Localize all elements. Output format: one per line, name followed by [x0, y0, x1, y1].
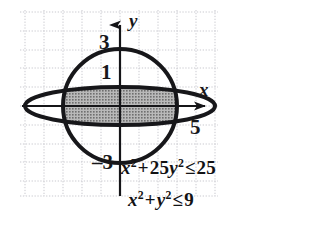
label-x-five: 5 — [190, 117, 201, 138]
eq1-relation: ≤ — [184, 157, 197, 178]
eq1-plus: + — [137, 157, 150, 178]
eq1-rhs: 25 — [197, 157, 216, 178]
axis-label-y: y — [129, 11, 137, 30]
eq1-x-exponent: 2 — [131, 157, 137, 170]
eq1-x: x — [121, 157, 131, 178]
label-y-three: 3 — [99, 32, 110, 53]
eq2-y-exponent: 2 — [165, 189, 171, 202]
label-y-one: 1 — [101, 62, 112, 83]
label-y-negative-three: –3 — [92, 152, 113, 173]
eq2-relation: ≤ — [172, 189, 185, 210]
axis-label-x: x — [199, 80, 209, 99]
eq2-plus: + — [144, 189, 157, 210]
eq2-x: x — [128, 189, 138, 210]
eq2-rhs: 9 — [184, 189, 194, 210]
inequality-first: x2+25y2≤25 — [121, 158, 216, 177]
inequality-second: x2+y2≤9 — [128, 190, 194, 209]
eq2-x-exponent: 2 — [138, 189, 144, 202]
eq1-y: y — [169, 157, 178, 178]
eq1-coefficient: 25 — [150, 157, 169, 178]
